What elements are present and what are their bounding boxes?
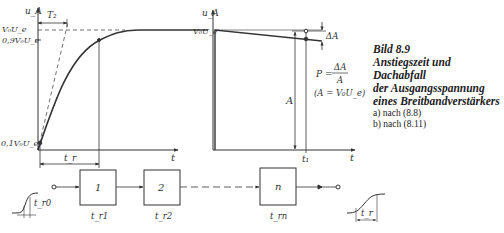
plot-a-level-90-label: 0,9V₀U_e bbox=[2, 36, 39, 45]
wire-n-out-arrow bbox=[318, 185, 322, 189]
caption-title-line-1: Anstiegszeit und Dachabfall bbox=[373, 56, 504, 82]
plot-b-dA-label: ΔA bbox=[325, 31, 338, 41]
plot-b-formula-lhs: P = bbox=[315, 69, 332, 79]
caption-subitem-b: b) nach (8.11) bbox=[373, 119, 504, 130]
block-n-rise: t_rn bbox=[270, 211, 287, 222]
plot-a-level-full-label: V₀U_e bbox=[2, 25, 27, 34]
plot-a-T2-label: T₂ bbox=[47, 10, 57, 20]
block-1-label: 1 bbox=[95, 182, 101, 193]
plot-b-formula-num: ΔA bbox=[333, 62, 346, 72]
block-2-label: 2 bbox=[157, 182, 164, 193]
plot-a-point-90 bbox=[98, 39, 101, 42]
caption-figure-number: Bild 8.9 bbox=[373, 43, 504, 56]
output-terminal bbox=[336, 185, 340, 189]
plot-b-open-point bbox=[304, 29, 308, 33]
figure-caption: Bild 8.9 Anstiegszeit und Dachabfall der… bbox=[373, 43, 504, 130]
caption-title-line-3: eines Breitbandverstärkers bbox=[373, 95, 504, 108]
plot-b-filled-point bbox=[304, 37, 308, 41]
plot-b-formula-den: A bbox=[336, 75, 343, 85]
block-2-rise: t_r2 bbox=[155, 211, 172, 222]
input-terminal bbox=[52, 185, 56, 189]
plot-a bbox=[35, 8, 208, 168]
plot-b-level-label: V₀U_e bbox=[193, 27, 218, 36]
block-1-rise: t_r1 bbox=[91, 211, 108, 222]
plot-b-y-label: u_A bbox=[202, 8, 219, 19]
plot-a-point-10 bbox=[38, 141, 42, 145]
plot-a-x-label: t bbox=[171, 152, 176, 163]
plot-b-A-label: A bbox=[285, 95, 293, 106]
plot-a-tangent-dashed bbox=[38, 22, 68, 150]
plot-a-rise-label: t_r bbox=[64, 153, 77, 164]
plot-b-x-label: t bbox=[350, 152, 355, 163]
amplifier-chain bbox=[12, 168, 385, 222]
plot-a-level-10-label: 0,1V₀U_e bbox=[1, 139, 38, 148]
input-rise-label: t_r0 bbox=[34, 198, 52, 209]
plot-a-response-curve bbox=[38, 30, 208, 150]
caption-subitem-a: a) nach (8.8) bbox=[373, 108, 504, 119]
plot-a-y-label: u_A bbox=[25, 6, 42, 17]
caption-title-line-2: der Ausgangsspannung bbox=[373, 82, 504, 95]
plot-b-formula-note: (A = V₀U_e) bbox=[314, 88, 365, 99]
plot-b-t1-label: t₁ bbox=[302, 154, 309, 164]
output-rise-label: t_r bbox=[361, 208, 374, 219]
block-n-label: n bbox=[275, 181, 281, 192]
